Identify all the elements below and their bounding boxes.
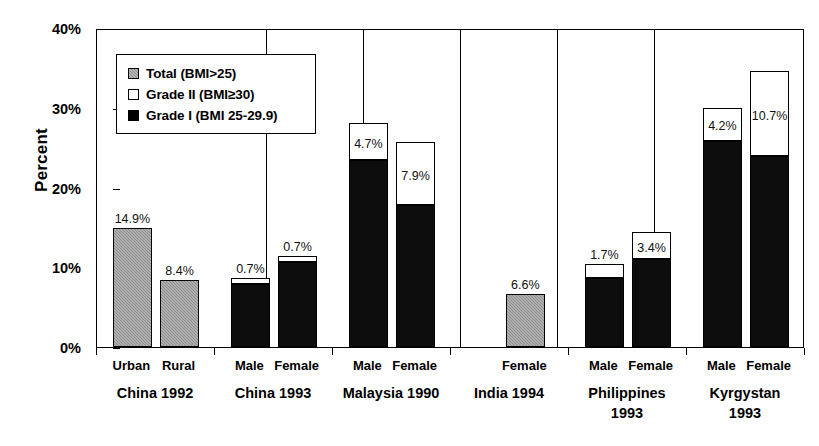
legend-swatch-total-icon bbox=[128, 68, 139, 79]
x-group-label: China 1993 bbox=[235, 384, 312, 404]
bar-segment-grade2 bbox=[278, 256, 317, 262]
legend-swatch-grade1-icon bbox=[128, 110, 139, 121]
bar-value-label: 14.9% bbox=[100, 213, 165, 226]
y-tick-label: 40% bbox=[25, 22, 81, 37]
bar-segment-grade1 bbox=[396, 205, 435, 347]
bar bbox=[585, 264, 624, 347]
x-category-label: Rural bbox=[162, 358, 195, 373]
legend-label: Total (BMI>25) bbox=[146, 66, 236, 81]
bar-value-label: 4.7% bbox=[336, 138, 401, 151]
y-tick-label: 30% bbox=[25, 102, 81, 117]
legend-label: Grade II (BMI≥30) bbox=[146, 87, 254, 102]
group-separator bbox=[460, 30, 461, 347]
legend-item: Grade I (BMI 25-29.9) bbox=[128, 108, 306, 123]
bar-segment-total bbox=[506, 294, 545, 347]
bar-value-label: 7.9% bbox=[383, 170, 448, 183]
bar bbox=[703, 108, 742, 347]
bar-segment-grade1 bbox=[278, 262, 317, 347]
bar bbox=[278, 256, 317, 347]
x-group-label: Kyrgystan1993 bbox=[710, 384, 781, 423]
bar-value-label: 0.7% bbox=[218, 263, 283, 276]
bar-segment-grade1 bbox=[231, 284, 270, 347]
x-group-label: Philippines1993 bbox=[588, 384, 665, 423]
legend-label: Grade I (BMI 25-29.9) bbox=[146, 108, 277, 123]
x-category-label: Female bbox=[628, 358, 673, 373]
x-tick-mark bbox=[686, 348, 687, 355]
legend-item: Grade II (BMI≥30) bbox=[128, 87, 306, 102]
x-category-label: Male bbox=[589, 358, 618, 373]
x-tick-mark bbox=[332, 348, 333, 355]
x-category-label: Male bbox=[353, 358, 382, 373]
bar-segment-grade1 bbox=[349, 160, 388, 347]
bar-segment-grade2 bbox=[231, 278, 270, 284]
legend-item: Total (BMI>25) bbox=[128, 66, 306, 81]
group-separator bbox=[557, 30, 558, 347]
bar-value-label: 6.6% bbox=[493, 279, 558, 292]
y-tick-label: 10% bbox=[25, 261, 81, 276]
bar bbox=[113, 228, 152, 347]
bar-segment-total bbox=[113, 228, 152, 347]
x-category-label: Urban bbox=[113, 358, 151, 373]
chart-legend: Total (BMI>25)Grade II (BMI≥30)Grade I (… bbox=[116, 54, 316, 134]
y-tick-mark bbox=[113, 348, 120, 349]
x-tick-mark bbox=[96, 348, 97, 355]
bar-value-label: 10.7% bbox=[737, 110, 802, 123]
x-tick-mark bbox=[568, 348, 569, 355]
x-group-label: Malaysia 1990 bbox=[343, 384, 440, 404]
x-category-label: Male bbox=[707, 358, 736, 373]
bar bbox=[506, 294, 545, 347]
x-tick-mark bbox=[450, 348, 451, 355]
x-category-label: Female bbox=[746, 358, 791, 373]
x-category-label: Female bbox=[392, 358, 437, 373]
bar-value-label: 8.4% bbox=[147, 265, 212, 278]
y-tick-label: 0% bbox=[25, 341, 81, 356]
x-group-label: India 1994 bbox=[474, 384, 544, 404]
x-category-label: Female bbox=[502, 358, 547, 373]
bar bbox=[231, 278, 270, 347]
bar-value-label: 0.7% bbox=[265, 241, 330, 254]
bar-segment-grade1 bbox=[750, 156, 789, 347]
x-category-label: Male bbox=[235, 358, 264, 373]
legend-swatch-grade2-icon bbox=[128, 89, 139, 100]
y-tick-label: 20% bbox=[25, 181, 81, 196]
x-category-label: Female bbox=[274, 358, 319, 373]
bar bbox=[160, 280, 199, 347]
bar-chart: Percent 0%10%20%30%40% 14.9%8.4%0.7%0.7%… bbox=[0, 0, 819, 446]
bar-segment-total bbox=[160, 280, 199, 347]
y-axis-tick-labels: 0%10%20%30%40% bbox=[25, 0, 81, 446]
x-axis-labels: UrbanRuralChina 1992MaleFemaleChina 1993… bbox=[96, 352, 804, 442]
bar-value-label: 3.4% bbox=[619, 242, 684, 255]
bar-segment-grade1 bbox=[585, 278, 624, 347]
bar-segment-grade1 bbox=[703, 141, 742, 347]
x-group-label: China 1992 bbox=[117, 384, 194, 404]
x-tick-mark bbox=[214, 348, 215, 355]
bar-value-label: 4.2% bbox=[690, 120, 755, 133]
bar-segment-grade2 bbox=[585, 264, 624, 278]
bar bbox=[349, 123, 388, 347]
bar-segment-grade1 bbox=[632, 259, 671, 347]
x-tick-mark bbox=[804, 348, 805, 355]
